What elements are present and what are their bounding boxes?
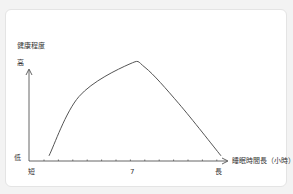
x-axis-label: 睡眠時間長（小時）	[232, 156, 293, 165]
health-curve	[49, 61, 221, 155]
x-long-label: 長	[215, 168, 222, 176]
x-mark-label: 7	[130, 168, 134, 176]
chart-svg: 健康程度 高 低 短 7 長 睡眠時間長（小時）	[0, 0, 293, 194]
y-high-label: 高	[17, 58, 24, 67]
x-short-label: 短	[28, 167, 35, 176]
y-axis-label: 健康程度	[17, 41, 45, 50]
y-low-label: 低	[14, 153, 21, 162]
